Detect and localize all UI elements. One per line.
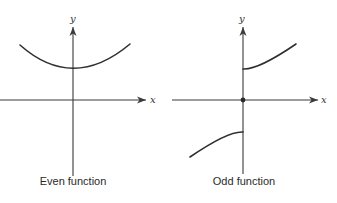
odd-y-axis-label: y: [238, 13, 245, 24]
odd-function-caption: Odd function: [213, 175, 275, 187]
even-function-curve: [20, 44, 130, 68]
odd-function-upper-curve: [243, 44, 296, 69]
even-y-axis-label: y: [69, 13, 76, 24]
even-function-panel: y x: [0, 13, 156, 176]
even-function-caption: Even function: [40, 175, 107, 187]
diagram-canvas: y x y x: [0, 0, 337, 203]
odd-function-panel: y x: [172, 13, 327, 174]
origin-point: [241, 98, 246, 103]
even-x-axis-label: x: [150, 94, 156, 105]
odd-x-axis-label: x: [321, 94, 327, 105]
odd-function-lower-curve: [190, 132, 243, 157]
